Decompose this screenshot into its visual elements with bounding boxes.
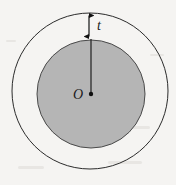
- thickness-label: t: [97, 18, 102, 33]
- figure-canvas: t O: [0, 0, 176, 185]
- center-point-dot: [89, 92, 93, 96]
- center-label: O: [73, 87, 83, 102]
- annulus-diagram-svg: t O: [0, 0, 176, 185]
